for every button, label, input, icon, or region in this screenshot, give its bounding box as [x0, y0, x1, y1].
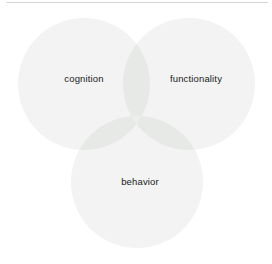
set-label-behavior: behavior [121, 177, 159, 187]
venn-circles-graphic [0, 0, 272, 264]
set-label-cognition: cognition [64, 74, 103, 84]
set-label-functionality: functionality [170, 74, 222, 84]
venn-diagram-figure: cognition functionality behavior [0, 0, 272, 264]
